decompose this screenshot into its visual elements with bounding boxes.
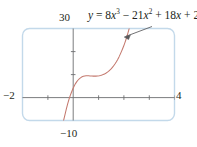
y-max-label: 30 xyxy=(59,12,70,23)
equation-constant: 2 xyxy=(193,9,197,21)
equation-plus-first: + xyxy=(152,9,164,21)
viewing-window-frame xyxy=(23,29,175,121)
equation-equals: = xyxy=(93,9,105,21)
x-min-label: −2 xyxy=(3,90,15,101)
equation-annotation: y = 8x3 − 21x2 + 18x + 2 xyxy=(88,10,197,22)
x-max-label: 4 xyxy=(176,90,182,101)
equation-minus: − xyxy=(120,9,132,21)
equation-coef-linear: 18 xyxy=(165,9,177,21)
y-min-label: −10 xyxy=(60,128,77,139)
graph-canvas xyxy=(0,0,197,147)
equation-coef-quad: 21 xyxy=(132,9,144,21)
equation-plus-second: + xyxy=(181,9,193,21)
figure-container: y = 8x3 − 21x2 + 18x + 2 30 −10 −2 4 xyxy=(0,0,197,147)
